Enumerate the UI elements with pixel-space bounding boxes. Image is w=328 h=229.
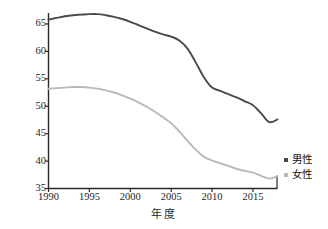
x-axis-tick-labels: 199019952000200520102015 [0, 191, 328, 205]
legend-item-label: 女性 [292, 169, 312, 180]
legend-item[interactable]: 男性 [284, 152, 328, 167]
series-line-男性 [49, 14, 278, 122]
x-axis-tick-label: 2010 [192, 191, 232, 202]
x-axis-title: 年 度 [48, 205, 278, 221]
x-axis-tick-label: 2005 [151, 191, 191, 202]
chart-figure: 年龄标准化发病率(/10万) 35404550556065 1990199520… [0, 0, 328, 229]
x-axis-tick-label: 1990 [29, 191, 69, 202]
data-series-layer [49, 14, 278, 179]
x-axis-tick-label: 2000 [110, 191, 150, 202]
legend-swatch-icon [284, 173, 288, 177]
legend-item-label: 男性 [292, 154, 312, 165]
legend-swatch-icon [284, 158, 288, 162]
legend-item[interactable]: 女性 [284, 167, 328, 182]
x-axis-tick-label: 1995 [69, 191, 109, 202]
x-axis-tick-label: 2015 [233, 191, 273, 202]
chart-legend: 男性女性 [284, 152, 328, 182]
